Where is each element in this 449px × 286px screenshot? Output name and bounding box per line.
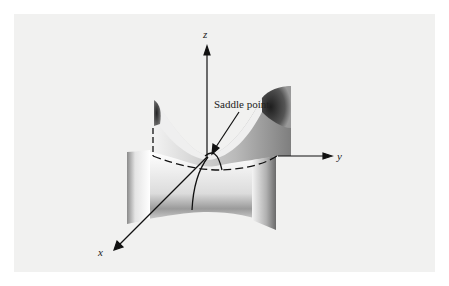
- saddle-point-label: Saddle point: [214, 98, 269, 110]
- y-axis-arrowhead-icon: [323, 153, 332, 159]
- z-axis-arrowhead-icon: [204, 46, 210, 55]
- saddle-diagram: z y x Saddle point: [0, 0, 449, 286]
- y-axis-label: y: [336, 150, 342, 162]
- x-axis-label: x: [97, 246, 103, 258]
- z-axis-label: z: [202, 28, 208, 40]
